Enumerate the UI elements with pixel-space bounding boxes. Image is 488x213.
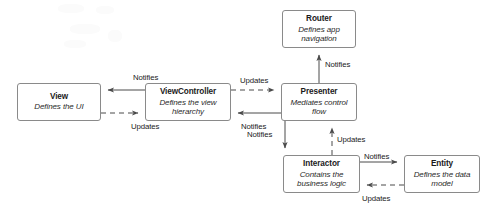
edge-label-interactor-to-presenter: Updates [337,135,365,144]
node-presenter-subtitle: Mediates control flow [285,98,353,117]
node-entity-title: Entity [431,159,453,169]
scan-artifact [58,4,84,13]
scan-artifact [64,40,86,48]
scan-artifact [96,6,114,14]
scan-artifact [108,30,122,42]
edge-label-interactor-to-entity: Notifies [364,152,389,161]
node-entity[interactable]: Entity Defines the data model [404,155,480,193]
node-view-subtitle: Defines the UI [34,102,83,111]
edge-label-viewcontroller-to-view: Notifies [133,73,158,82]
node-interactor[interactable]: Interactor Contains the business logic [283,155,360,193]
node-viewcontroller-subtitle: Defines the view hierarchy [149,98,227,117]
node-router-title: Router [306,14,332,24]
node-viewcontroller-title: ViewController [160,87,216,97]
edge-label-viewcontroller-to-presenter: Updates [240,76,268,85]
node-router-subtitle: Defines app navigation [286,25,352,44]
node-router[interactable]: Router Defines app navigation [282,10,356,48]
node-view-title: View [50,92,68,102]
node-viewcontroller[interactable]: ViewController Defines the view hierarch… [145,83,231,121]
node-view[interactable]: View Defines the UI [17,83,101,121]
node-presenter[interactable]: Presenter Mediates control flow [281,83,357,121]
edge-label-presenter-to-interactor: Notifies [247,130,272,139]
edge-label-presenter-to-router: Notifies [325,60,350,69]
node-interactor-title: Interactor [303,159,340,169]
edge-label-view-to-viewcontroller: Updates [131,122,159,131]
edge-label-entity-to-interactor: Updates [362,194,390,203]
node-interactor-subtitle: Contains the business logic [287,170,356,189]
node-presenter-title: Presenter [301,87,338,97]
scan-artifact [70,24,100,34]
node-entity-subtitle: Defines the data model [408,170,476,189]
diagram-canvas: View Defines the UI ViewController Defin… [0,0,488,213]
